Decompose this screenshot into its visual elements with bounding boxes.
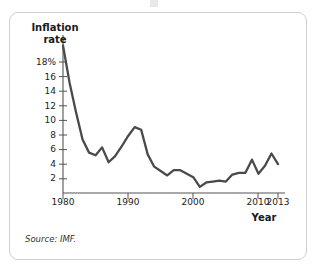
- x-tick-label-1990: 1990: [108, 198, 148, 207]
- y-tick-label-6: 6: [22, 145, 56, 154]
- y-tick-label-10: 10: [22, 116, 56, 125]
- inflation-rate-series-line: [63, 46, 278, 187]
- x-tick-label-2013: 2013: [258, 198, 298, 207]
- x-tick-label-1980: 1980: [43, 198, 83, 207]
- y-tick-label-14: 14: [22, 87, 56, 96]
- x-axis-title: Year: [240, 212, 288, 224]
- x-tick-label-2000: 2000: [173, 198, 213, 207]
- y-tick-label-16: 16: [22, 73, 56, 82]
- source-note: Source: IMF.: [25, 234, 76, 244]
- chart-plot-area: Inflation rate 18% 16 14 12 10 8 6 4 2 1…: [10, 13, 308, 261]
- y-tick-label-2: 2: [22, 174, 56, 183]
- y-axis-title: Inflation rate: [23, 22, 87, 46]
- y-tick-label-12: 12: [22, 102, 56, 111]
- chart-figure-frame: Inflation rate 18% 16 14 12 10 8 6 4 2 1…: [9, 12, 307, 260]
- y-axis-title-line1: Inflation: [23, 22, 87, 34]
- y-axis-title-line2: rate: [23, 34, 87, 46]
- top-edge-artifact: [150, 0, 158, 7]
- y-tick-label-18: 18%: [22, 58, 56, 67]
- y-tick-label-8: 8: [22, 131, 56, 140]
- y-tick-label-4: 4: [22, 160, 56, 169]
